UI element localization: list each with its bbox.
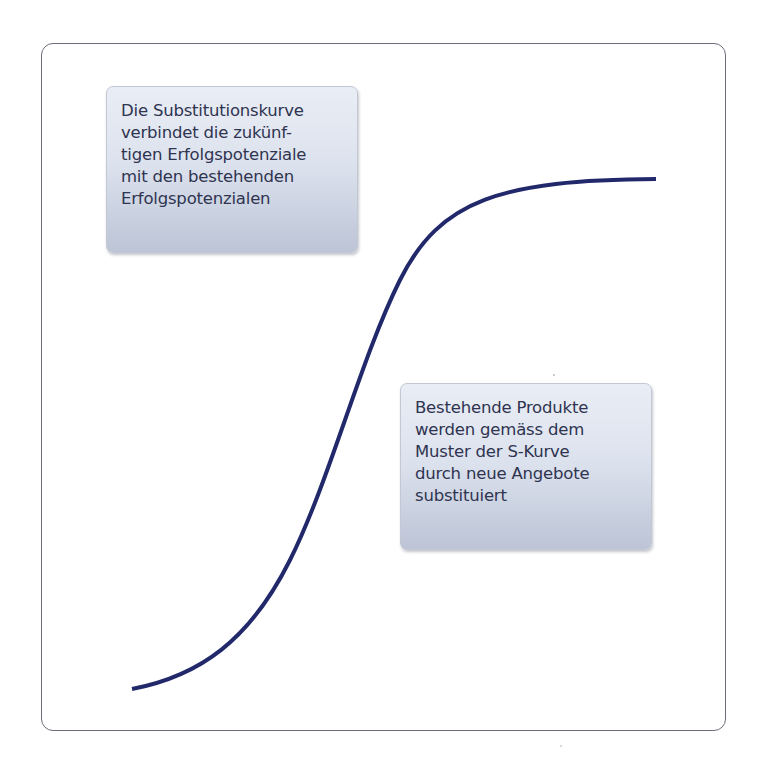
note-line: mit den bestehenden [121, 166, 347, 188]
note-line: Erfolgspotenzialen [121, 188, 347, 210]
note-line: Die Substitutionskurve [121, 100, 347, 122]
note-line: Bestehende Produkte [415, 397, 641, 419]
note-line: durch neue Angebote [415, 463, 641, 485]
speck [553, 374, 555, 376]
speck [560, 745, 562, 747]
note-line: werden gemäss dem [415, 419, 641, 441]
note-line: Muster der S-Kurve [415, 441, 641, 463]
note-existing-products: Bestehende Produkte werden gemäss dem Mu… [400, 383, 652, 550]
note-line: substituiert [415, 485, 641, 507]
note-substitution-curve: Die Substitutionskurve verbindet die zuk… [106, 86, 358, 253]
note-line: verbindet die zukünf- [121, 122, 347, 144]
note-line: tigen Erfolgspotenziale [121, 144, 347, 166]
